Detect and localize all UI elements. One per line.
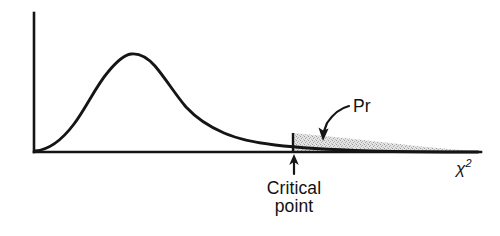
critical-point-label-line2: point <box>275 196 313 216</box>
pr-arrow <box>319 106 350 141</box>
chi-square-distribution-chart: Chi-square distribution with critical po… <box>0 0 500 236</box>
tail-probability-label: Pr <box>353 96 371 116</box>
x-axis-exponent: 2 <box>464 157 471 169</box>
figure-root: Chi-square distribution with critical po… <box>0 0 500 236</box>
x-axis-symbol: χ <box>454 159 466 178</box>
critical-point-label-line1: Critical <box>267 178 321 198</box>
density-curve <box>35 54 478 152</box>
x-axis-label: χ2 <box>454 157 472 178</box>
critical-point-arrow <box>289 154 299 174</box>
